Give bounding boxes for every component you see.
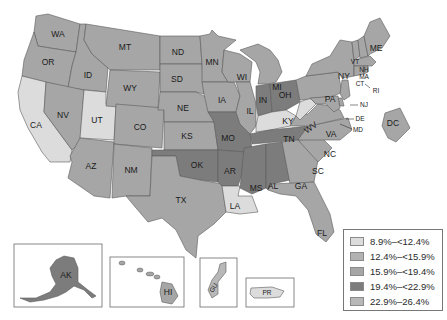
label-wy: WY bbox=[123, 83, 137, 93]
legend-label: 19.4%–<22.9% bbox=[370, 281, 435, 292]
legend-item: 12.4%–<15.9% bbox=[350, 251, 435, 262]
hi-island bbox=[119, 261, 125, 265]
legend-swatch bbox=[350, 237, 364, 246]
label-ak: AK bbox=[60, 270, 72, 280]
legend: 8.9%–<12.4% 12.4%–<15.9% 15.9%–<19.4% 19… bbox=[343, 229, 443, 311]
label-de: DE bbox=[355, 115, 365, 122]
label-wa: WA bbox=[51, 29, 65, 39]
legend-swatch bbox=[350, 282, 364, 291]
legend-item: 19.4%–<22.9% bbox=[350, 281, 435, 292]
label-or: OR bbox=[42, 57, 55, 67]
label-oh: OH bbox=[279, 90, 292, 100]
label-mn: MN bbox=[205, 57, 218, 67]
label-vt: VT bbox=[351, 58, 359, 65]
label-dc: DC bbox=[387, 118, 399, 128]
inset-gu bbox=[200, 258, 237, 307]
label-ok: OK bbox=[191, 160, 204, 170]
label-va: VA bbox=[326, 129, 337, 139]
hi-island bbox=[137, 268, 143, 272]
label-sd: SD bbox=[171, 74, 183, 84]
label-fl: FL bbox=[317, 228, 327, 238]
label-nd: ND bbox=[172, 47, 184, 57]
leader-ri bbox=[365, 84, 370, 88]
legend-label: 15.9%–<19.4% bbox=[370, 266, 435, 277]
label-nv: NV bbox=[57, 110, 69, 120]
label-co: CO bbox=[134, 122, 147, 132]
state-nj[interactable] bbox=[340, 80, 350, 100]
hi-island bbox=[146, 272, 154, 276]
label-nc: NC bbox=[324, 149, 336, 159]
label-id: ID bbox=[84, 70, 93, 80]
label-ct: CT bbox=[356, 80, 365, 87]
label-hi: HI bbox=[164, 287, 173, 297]
label-ga: GA bbox=[295, 181, 308, 191]
label-sc: SC bbox=[312, 166, 324, 176]
legend-item: 22.9%–26.4% bbox=[350, 296, 429, 307]
label-mt: MT bbox=[119, 42, 131, 52]
label-ma: MA bbox=[359, 73, 369, 80]
label-ar: AR bbox=[224, 166, 236, 176]
label-wi: WI bbox=[237, 72, 247, 82]
label-nm: NM bbox=[124, 165, 137, 175]
legend-item: 8.9%–<12.4% bbox=[350, 236, 429, 247]
hi-island bbox=[154, 275, 160, 279]
label-mo: MO bbox=[221, 133, 235, 143]
legend-label: 8.9%–<12.4% bbox=[370, 236, 429, 247]
label-il: IL bbox=[246, 106, 253, 116]
label-tx: TX bbox=[176, 195, 187, 205]
label-ne: NE bbox=[177, 103, 189, 113]
label-ny: NY bbox=[338, 71, 350, 81]
label-ut: UT bbox=[91, 115, 102, 125]
label-az: AZ bbox=[86, 161, 97, 171]
label-al: AL bbox=[268, 181, 279, 191]
label-ks: KS bbox=[181, 131, 193, 141]
label-ms: MS bbox=[250, 183, 263, 193]
label-ri: RI bbox=[373, 87, 380, 94]
label-la: LA bbox=[230, 201, 241, 211]
label-md: MD bbox=[353, 126, 363, 133]
label-tn: TN bbox=[283, 134, 294, 144]
label-in: IN bbox=[259, 95, 268, 105]
label-pr: PR bbox=[262, 289, 271, 296]
label-ca: CA bbox=[30, 120, 42, 130]
label-ia: IA bbox=[218, 95, 226, 105]
legend-item: 15.9%–<19.4% bbox=[350, 266, 435, 277]
label-nh: NH bbox=[359, 66, 369, 73]
label-pa: PA bbox=[325, 94, 336, 104]
legend-label: 12.4%–<15.9% bbox=[370, 251, 435, 262]
legend-swatch bbox=[350, 252, 364, 261]
legend-swatch bbox=[350, 267, 364, 276]
label-nj: NJ bbox=[360, 101, 368, 108]
label-me: ME bbox=[370, 43, 383, 53]
label-ky: KY bbox=[282, 116, 294, 126]
legend-label: 22.9%–26.4% bbox=[370, 296, 429, 307]
legend-swatch bbox=[350, 297, 364, 306]
